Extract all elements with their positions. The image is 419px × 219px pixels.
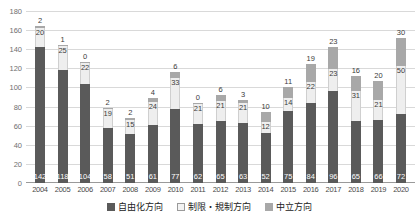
bar-value-label: 14 [284,99,292,107]
bar-segment[interactable]: 14 [283,98,293,111]
bar-segment[interactable]: 66 [373,120,383,183]
bar-column[interactable]: 662120 [368,11,388,183]
bar-value-label: 16 [352,67,360,75]
x-axis-tick-label: 2016 [301,185,321,197]
bar-segment[interactable]: 21 [373,100,383,120]
bar-segment[interactable]: 96 [328,91,338,183]
bar-value-label: 104 [79,173,92,181]
bar-value-label: 65 [352,173,360,181]
bar-segment[interactable]: 65 [351,121,361,183]
bar-segment[interactable]: 3 [238,100,248,103]
bar-segment[interactable]: 4 [148,98,158,102]
bar-segment[interactable]: 21 [238,103,248,123]
bar-column[interactable]: 62210 [188,11,208,183]
bar-segment[interactable]: 30 [396,38,406,67]
bar-segment[interactable]: 52 [261,133,271,183]
bar-segment[interactable]: 75 [283,111,293,183]
legend-item[interactable]: 制限・規制方向 [177,200,251,213]
bar-segment[interactable]: 19 [103,109,113,127]
bar-value-label: 52 [261,173,269,181]
legend-swatch-icon [177,203,185,211]
bar-column[interactable]: 653116 [346,11,366,183]
bar-segment[interactable]: 16 [351,76,361,91]
bar-value-label: 0 [196,94,200,102]
bar-segment[interactable]: 22 [306,82,316,103]
bar-segment[interactable]: 21 [216,101,226,121]
bar-segment[interactable]: 2 [125,118,135,120]
bar-segment[interactable]: 20 [373,81,383,100]
bar-segment[interactable]: 84 [306,103,316,183]
legend-item[interactable]: 自由化方向 [107,200,163,213]
bar-column[interactable]: 104220 [75,11,95,183]
bar-segment[interactable]: 21 [193,104,203,124]
bar-segment[interactable]: 31 [351,91,361,121]
bar-segment[interactable]: 15 [125,120,135,134]
legend-swatch-icon [107,203,115,211]
bar-stack: 61244 [148,98,158,183]
bar-segment[interactable]: 1 [58,45,68,46]
bar-value-label: 10 [261,103,269,111]
bar-column[interactable]: 65216 [211,11,231,183]
bar-value-label: 20 [36,29,44,37]
bar-stack: 62210 [193,103,203,183]
bar-column[interactable]: 61244 [143,11,163,183]
bar-segment[interactable]: 25 [58,46,68,70]
bar-value-label: 65 [216,173,224,181]
bar-segment[interactable]: 11 [283,87,293,98]
bar-segment[interactable]: 104 [80,84,90,183]
bar-column[interactable]: 142202 [30,11,50,183]
legend-item[interactable]: 中立方向 [265,200,312,213]
bar-segment[interactable]: 22 [80,63,90,84]
bar-segment[interactable]: 58 [103,128,113,183]
bar-segment[interactable]: 51 [125,134,135,183]
bar-column[interactable]: 521210 [256,11,276,183]
y-axis-tick-label: 180 [0,7,22,16]
bar-column[interactable]: 962323 [323,11,343,183]
bar-segment[interactable]: 2 [103,108,113,110]
bar-segment[interactable]: 19 [306,64,316,82]
bar-column[interactable]: 63213 [233,11,253,183]
chart-legend: 自由化方向制限・規制方向中立方向 [0,200,419,213]
bar-segment[interactable]: 10 [261,112,271,122]
bar-segment[interactable]: 72 [396,114,406,183]
bar-segment[interactable]: 24 [148,102,158,125]
bar-segment[interactable]: 6 [170,72,180,78]
bar-column[interactable]: 751411 [278,11,298,183]
bar-segment[interactable]: 0 [80,62,90,63]
bar-segment[interactable]: 62 [193,124,203,183]
bar-segment[interactable]: 0 [193,103,203,104]
bar-segment[interactable]: 20 [35,28,45,47]
bar-column[interactable]: 118251 [53,11,73,183]
bar-value-label: 15 [126,121,134,129]
bar-column[interactable]: 77336 [165,11,185,183]
bar-segment[interactable]: 142 [35,47,45,183]
bar-column[interactable]: 725030 [391,11,411,183]
y-axis-tick-label: 40 [0,140,22,149]
bar-value-label: 2 [106,99,110,107]
bar-segment[interactable]: 33 [170,78,180,110]
bar-stack: 63213 [238,100,248,183]
bar-segment[interactable]: 23 [328,69,338,91]
bar-value-label: 0 [83,53,87,61]
bar-segment[interactable]: 12 [261,122,271,133]
bar-segment[interactable]: 23 [328,47,338,69]
bar-segment[interactable]: 77 [170,109,180,183]
bar-value-label: 84 [307,173,315,181]
bar-column[interactable]: 842219 [301,11,321,183]
bar-stack: 653116 [351,76,361,183]
bar-segment[interactable]: 65 [216,121,226,183]
bar-segment[interactable]: 63 [238,123,248,183]
bar-value-label: 22 [81,64,89,72]
bar-segment[interactable]: 61 [148,125,158,183]
legend-swatch-icon [265,203,273,211]
bar-segment[interactable]: 2 [35,26,45,28]
bar-column[interactable]: 58192 [98,11,118,183]
bar-segment[interactable]: 50 [396,66,406,114]
bar-column[interactable]: 51152 [120,11,140,183]
x-axis-tick-label: 2008 [120,185,140,197]
bar-segment[interactable]: 6 [216,95,226,101]
bar-segment[interactable]: 118 [58,70,68,183]
bar-value-label: 3 [241,91,245,99]
x-axis-labels: 2004200520062007200820092010201120122013… [26,185,415,197]
bar-stack: 104220 [80,62,90,183]
